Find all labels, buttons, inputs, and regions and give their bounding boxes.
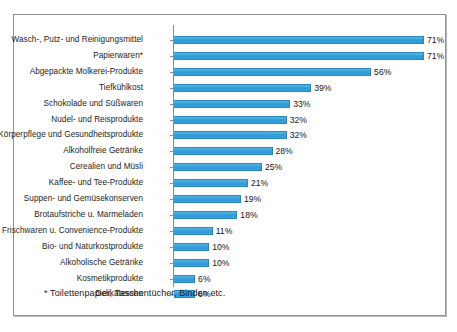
bar-row: Wasch-, Putz- und Reinigungsmittel71% — [14, 32, 445, 48]
bar-value-label: 18% — [240, 207, 257, 223]
bar-row: Brotaufstriche u. Marmeladen18% — [14, 207, 445, 223]
bar-value-label: 39% — [314, 80, 331, 96]
bar-row: Papierwaren*71% — [14, 48, 445, 64]
bar-row: Cerealien und Müsli25% — [14, 159, 445, 175]
bar-category-label: Alkoholische Getränke — [60, 255, 143, 271]
bar — [174, 131, 287, 139]
chart-frame: Wasch-, Putz- und Reinigungsmittel71%Pap… — [13, 14, 446, 316]
bar — [174, 36, 424, 44]
bar-row: Suppen- und Gemüsekonserven19% — [14, 191, 445, 207]
bar-category-label: Cerealien und Müsli — [70, 159, 143, 175]
bar-row: Bio- und Naturkostprodukte10% — [14, 239, 445, 255]
bar — [174, 243, 209, 251]
bar-value-label: 32% — [290, 112, 307, 128]
bar-value-label: 19% — [244, 191, 261, 207]
bar-category-label: Körperpflege und Gesundheitsprodukte — [0, 127, 143, 143]
bar-row: Körperpflege und Gesundheitsprodukte32% — [14, 127, 445, 143]
bar-row: Nudel- und Reisprodukte32% — [14, 112, 445, 128]
bar-value-label: 28% — [276, 143, 293, 159]
bar — [174, 179, 248, 187]
bar-category-label: Abgepackte Molkerei-Produkte — [30, 64, 143, 80]
bar-row: Schokolade und Süßwaren33% — [14, 96, 445, 112]
bar — [174, 68, 371, 76]
bar-value-label: 10% — [212, 239, 229, 255]
bar-category-label: Frischwaren u. Convenience-Produkte — [2, 223, 143, 239]
bar — [174, 52, 424, 60]
bar-category-label: Nudel- und Reisprodukte — [51, 112, 143, 128]
bar — [174, 147, 273, 155]
chart-footnote: * Toilettenpapier, Taschentücher, Binden… — [44, 288, 225, 298]
bar-value-label: 33% — [293, 96, 310, 112]
bar-value-label: 56% — [374, 64, 391, 80]
bar-value-label: 21% — [251, 175, 268, 191]
bar-value-label: 11% — [216, 223, 233, 239]
bar-row: Tiefkühlkost39% — [14, 80, 445, 96]
bar-value-label: 6% — [198, 271, 210, 287]
bar-value-label: 10% — [212, 255, 229, 271]
bar-category-label: Brotaufstriche u. Marmeladen — [34, 207, 143, 223]
bar-category-label: Kaffee- und Tee-Produkte — [49, 175, 143, 191]
bar-category-label: Wasch-, Putz- und Reinigungsmittel — [11, 32, 143, 48]
bar — [174, 259, 209, 267]
bar-category-label: Suppen- und Gemüsekonserven — [24, 191, 143, 207]
bar-category-label: Tiefkühlkost — [99, 80, 143, 96]
bar — [174, 195, 241, 203]
bar — [174, 227, 213, 235]
bar — [174, 100, 290, 108]
bar-category-label: Schokolade und Süßwaren — [44, 96, 143, 112]
bar-value-label: 32% — [290, 127, 307, 143]
bar — [174, 84, 311, 92]
bar — [174, 163, 262, 171]
bar-category-label: Bio- und Naturkostprodukte — [42, 239, 143, 255]
bar-category-label: Kosmetikprodukte — [77, 271, 143, 287]
bar — [174, 116, 287, 124]
bar-category-label: Papierwaren* — [93, 48, 143, 64]
bar-row: Frischwaren u. Convenience-Produkte11% — [14, 223, 445, 239]
bar-row: Kosmetikprodukte6% — [14, 271, 445, 287]
bar-value-label: 71% — [427, 48, 444, 64]
bar-row: Alkoholfreie Getränke28% — [14, 143, 445, 159]
bar-row: Abgepackte Molkerei-Produkte56% — [14, 64, 445, 80]
bar-value-label: 25% — [265, 159, 282, 175]
bar-category-label: Alkoholfreie Getränke — [63, 143, 143, 159]
bar-row: Kaffee- und Tee-Produkte21% — [14, 175, 445, 191]
bar — [174, 275, 195, 283]
bar-row: Alkoholische Getränke10% — [14, 255, 445, 271]
bar-chart-plot: Wasch-, Putz- und Reinigungsmittel71%Pap… — [14, 15, 445, 315]
bar — [174, 211, 237, 219]
bar-value-label: 71% — [427, 32, 444, 48]
